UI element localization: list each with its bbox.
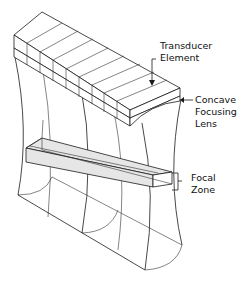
focal-zone-slab	[26, 138, 172, 187]
transducer-block	[14, 12, 180, 126]
transducer-element-label: Transducer Element	[160, 40, 212, 64]
label-line: Element	[160, 52, 212, 64]
label-line: Zone	[191, 184, 216, 196]
label-line: Concave	[195, 94, 237, 106]
label-line: Focal	[191, 172, 216, 184]
concave-lens-label: Concave Focusing Lens	[195, 94, 237, 130]
label-line: Transducer	[160, 40, 212, 52]
label-line: Lens	[195, 118, 237, 130]
bottom-edges	[18, 177, 182, 270]
bottom-arcs	[18, 177, 182, 270]
label-line: Focusing	[195, 106, 237, 118]
focal-zone-label: Focal Zone	[191, 172, 216, 196]
